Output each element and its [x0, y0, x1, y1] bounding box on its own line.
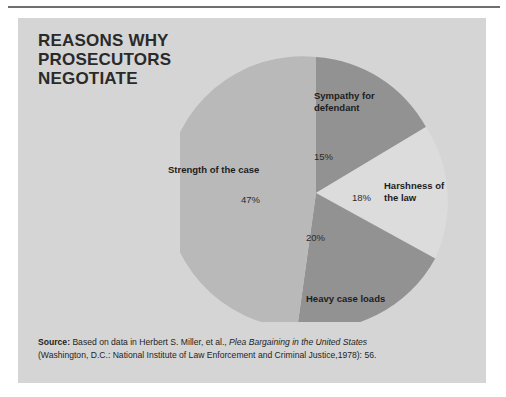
- source-text-line1: Based on data in Herbert S. Miller, et a…: [70, 337, 229, 347]
- source-title-italic: Plea Bargaining in the United States: [229, 337, 367, 347]
- pie-label-sympathy: Sympathy for defendant: [314, 90, 406, 113]
- top-divider-rule: [8, 6, 500, 8]
- pie-value-sympathy: 15%: [314, 151, 333, 162]
- pie-value-harshness: 18%: [352, 192, 371, 203]
- source-citation: Source: Based on data in Herbert S. Mill…: [38, 336, 468, 361]
- pie-value-heavy-case-loads: 20%: [306, 232, 325, 243]
- source-keyword: Source:: [38, 337, 70, 347]
- figure-panel: REASONS WHY PROSECUTORS NEGOTIATE Streng…: [18, 18, 486, 383]
- source-text-line2: (Washington, D.C.: National Institute of…: [38, 349, 468, 362]
- pie-value-strength: 47%: [241, 194, 260, 205]
- pie-label-strength: Strength of the case: [168, 164, 298, 176]
- pie-slice-strength: [180, 56, 316, 322]
- pie-label-heavy-case-loads: Heavy case loads: [306, 293, 426, 305]
- pie-label-harshness: Harshness of the law: [384, 180, 476, 203]
